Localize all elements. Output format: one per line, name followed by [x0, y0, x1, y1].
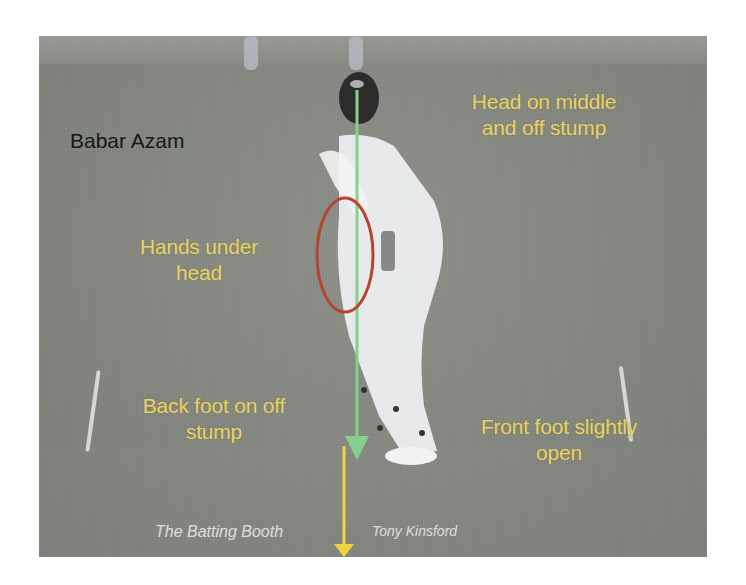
credit-batting-booth: The Batting Booth	[155, 523, 283, 541]
yellow-arrowhead-icon	[334, 544, 354, 557]
back-foot-annotation-line2: stump	[114, 419, 314, 445]
hands-annotation-line2: head	[114, 260, 284, 286]
head-annotation: Head on middle and off stump	[444, 89, 644, 141]
head-annotation-line1: Head on middle	[444, 89, 644, 115]
hands-annotation: Hands under head	[114, 234, 284, 286]
back-foot-annotation: Back foot on off stump	[114, 393, 314, 445]
cricket-photo: Babar Azam Head on middle and off stump …	[39, 36, 707, 557]
front-foot-annotation-line2: open	[449, 440, 669, 466]
hands-highlight-circle	[317, 198, 373, 312]
credit-photographer: Tony Kinsford	[372, 523, 457, 539]
back-foot-annotation-line1: Back foot on off	[114, 393, 314, 419]
front-foot-annotation-line1: Front foot slightly	[449, 414, 669, 440]
front-foot-annotation: Front foot slightly open	[449, 414, 669, 466]
green-arrowhead-icon	[345, 436, 369, 460]
hands-annotation-line1: Hands under	[114, 234, 284, 260]
player-name-label: Babar Azam	[70, 129, 184, 153]
head-annotation-line2: and off stump	[444, 115, 644, 141]
